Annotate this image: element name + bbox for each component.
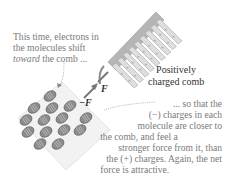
force-label-comb: F <box>101 83 108 94</box>
comb-handle <box>100 66 105 84</box>
positive-charge-mark: × <box>161 45 164 50</box>
caption-top: This time, electrons in the molecules sh… <box>13 31 99 64</box>
positive-charge-mark: × <box>148 43 151 48</box>
positive-charge-mark: × <box>153 38 156 43</box>
comb-label-line: Positively <box>148 64 204 76</box>
positive-charge-mark: × <box>126 65 129 70</box>
caption-bottom-line: (−) charges in each <box>106 109 222 120</box>
force-label-molecule: −F <box>79 97 92 108</box>
caption-bottom-line: molecule are closer to <box>106 120 222 131</box>
positive-charge-mark: × <box>166 40 169 45</box>
caption-bottom-line: ... so that the <box>106 98 222 109</box>
positive-charge-mark: × <box>172 34 175 39</box>
positive-charge-mark: × <box>120 71 123 76</box>
caption-bottom-line: the (+) charges. Again, the net <box>106 153 222 164</box>
caption-bottom-line: the comb, and feel a <box>100 131 222 142</box>
force-label-text: F <box>101 83 108 94</box>
comb-label: Positively charged comb <box>148 64 204 88</box>
caption-bottom-line: stronger force from it, than <box>106 142 222 153</box>
positive-charge-mark: × <box>164 27 167 32</box>
positive-charge-mark: × <box>150 56 153 61</box>
caption-bottom: ... so that the (−) charges in each mole… <box>106 98 222 175</box>
positive-charge-mark: × <box>139 67 142 72</box>
comb-label-line: charged comb <box>148 76 204 88</box>
positive-charge-mark: × <box>128 78 131 83</box>
caption-top-line: This time, electrons in <box>13 31 99 42</box>
positive-charge-mark: × <box>155 51 158 56</box>
positive-charge-mark: × <box>142 49 145 54</box>
caption-top-rest: the comb ... <box>40 53 87 64</box>
caption-top-line: toward the comb ... <box>13 53 99 64</box>
positive-charge-mark: × <box>159 32 162 37</box>
positive-charge-mark: × <box>131 60 134 65</box>
force-label-text: −F <box>79 97 92 108</box>
positive-charge-mark: × <box>137 54 140 59</box>
positive-charge-mark: × <box>133 73 136 78</box>
emphasis-word: toward <box>13 53 40 64</box>
caption-top-line: the molecules shift <box>13 42 99 53</box>
caption-bottom-line: force is attractive. <box>100 164 222 175</box>
